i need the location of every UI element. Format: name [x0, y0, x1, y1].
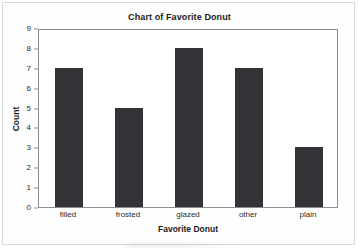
- bar[interactable]: [115, 108, 143, 207]
- bar[interactable]: [175, 48, 203, 207]
- y-tick-label: 0: [27, 204, 31, 212]
- x-tick-label: other: [239, 211, 257, 219]
- y-tick-label: 1: [27, 184, 31, 192]
- x-tick-label: frosted: [116, 211, 140, 219]
- x-axis-ticks: filledfrostedglazedotherplain: [38, 209, 338, 225]
- y-tick-label: 4: [27, 124, 31, 132]
- plot-inner: [39, 30, 337, 207]
- y-tick-label: 3: [27, 144, 31, 152]
- y-tick-label: 9: [27, 25, 31, 33]
- y-tick-label: 6: [27, 85, 31, 93]
- x-tick-label: glazed: [176, 211, 200, 219]
- y-tick-label: 7: [27, 65, 31, 73]
- plot-area: [38, 29, 338, 208]
- bar-series: [39, 30, 337, 207]
- bar[interactable]: [55, 68, 83, 207]
- y-tick-label: 5: [27, 105, 31, 113]
- bar[interactable]: [295, 147, 323, 207]
- cropped-caption-sliver: [120, 243, 240, 248]
- bar[interactable]: [235, 68, 263, 207]
- x-tick-label: filled: [60, 211, 76, 219]
- chart-screenshot: Chart of Favorite Donut Count 0123456789…: [0, 0, 359, 250]
- y-tick-label: 8: [27, 45, 31, 53]
- x-tick-label: plain: [300, 211, 317, 219]
- chart-title: Chart of Favorite Donut: [0, 12, 359, 22]
- y-tick-label: 2: [27, 164, 31, 172]
- x-axis-title: Favorite Donut: [38, 224, 338, 234]
- y-axis-ticks: 0123456789: [0, 29, 38, 208]
